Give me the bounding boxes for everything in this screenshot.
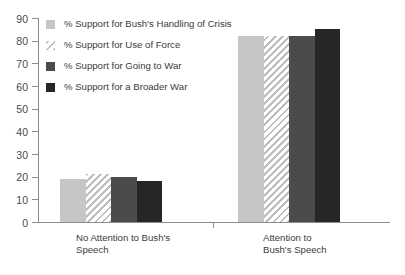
bar-chart: 9080706050403020100 % Support for Bush's… <box>0 0 405 275</box>
bar <box>315 29 341 222</box>
category-label-line: Bush's Speech <box>263 244 327 256</box>
legend-item-label: % Support for Going to War <box>64 61 182 72</box>
y-axis-tick-label: 20 <box>16 172 28 183</box>
category-label-line: Attention to <box>263 232 327 244</box>
bar <box>86 174 112 222</box>
y-axis-tick-label: 70 <box>16 59 28 70</box>
bar <box>60 179 86 222</box>
category-label-line: No Attention to Bush's <box>76 232 170 244</box>
bar <box>111 177 137 222</box>
x-axis-group-separator-tick <box>213 222 214 228</box>
y-axis-tick-label: 60 <box>16 81 28 92</box>
y-axis-tick-label: 10 <box>16 195 28 206</box>
legend-swatch-icon <box>46 41 55 50</box>
legend-item: % Support for Going to War <box>46 56 296 77</box>
x-axis-category-label-0: No Attention to Bush's Speech <box>76 232 170 256</box>
legend-item-label: % Support for Bush's Handling of Crisis <box>64 19 232 30</box>
legend-item: % Support for Bush's Handling of Crisis <box>46 14 296 35</box>
legend: % Support for Bush's Handling of Crisis … <box>46 14 296 98</box>
legend-item: % Support for a Broader War <box>46 77 296 98</box>
y-axis-tick-label: 0 <box>22 217 28 228</box>
x-axis-category-label-1: Attention to Bush's Speech <box>263 232 327 256</box>
y-axis-tick-label: 50 <box>16 104 28 115</box>
bar <box>137 181 163 222</box>
legend-item: % Support for Use of Force <box>46 35 296 56</box>
category-label-line: Speech <box>76 244 170 256</box>
legend-item-label: % Support for Use of Force <box>64 40 180 51</box>
x-axis-line <box>38 222 390 223</box>
legend-swatch-icon <box>46 83 55 92</box>
legend-swatch-icon <box>46 62 55 71</box>
y-axis-tick-label: 40 <box>16 127 28 138</box>
y-axis-tick-label: 90 <box>16 13 28 24</box>
legend-item-label: % Support for a Broader War <box>64 82 187 93</box>
y-axis-tick-label: 80 <box>16 36 28 47</box>
y-axis-tick-label: 30 <box>16 149 28 160</box>
y-axis-tick: 0 <box>32 222 38 223</box>
legend-swatch-icon <box>46 20 55 29</box>
